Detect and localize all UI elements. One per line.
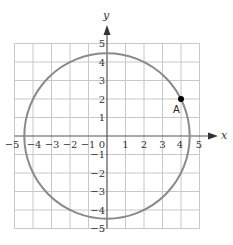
coordinate-plane: x y A −5 −4 −3 −2 −1 0 1 2 3 4 5 5 4 3 2… [0, 0, 233, 245]
y-tick: −3 [90, 186, 105, 197]
x-tick: −4 [27, 139, 42, 150]
y-tick: 4 [99, 57, 105, 68]
x-tick: 3 [159, 139, 165, 150]
x-tick: 2 [141, 139, 147, 150]
x-tick: 1 [122, 139, 128, 150]
point-a-label: A [173, 104, 180, 115]
x-tick: 5 [196, 139, 202, 150]
y-tick: −5 [90, 223, 105, 234]
axes [15, 32, 213, 229]
x-tick: −5 [5, 139, 20, 150]
x-tick: −2 [63, 139, 78, 150]
y-tick: −4 [90, 205, 105, 216]
x-tick: 4 [177, 139, 183, 150]
x-axis-label: x [221, 129, 228, 142]
y-tick: −1 [90, 149, 105, 160]
y-tick: 3 [99, 75, 105, 86]
x-tick: −3 [45, 139, 60, 150]
y-tick: 5 [99, 38, 105, 49]
x-axis-arrow-icon [208, 133, 218, 140]
y-tick: −2 [90, 168, 105, 179]
y-tick: 2 [99, 94, 105, 105]
point-a-marker [178, 96, 184, 102]
y-axis-arrow-icon [104, 25, 111, 35]
y-tick: 1 [99, 112, 105, 123]
y-axis-label: y [102, 9, 110, 22]
